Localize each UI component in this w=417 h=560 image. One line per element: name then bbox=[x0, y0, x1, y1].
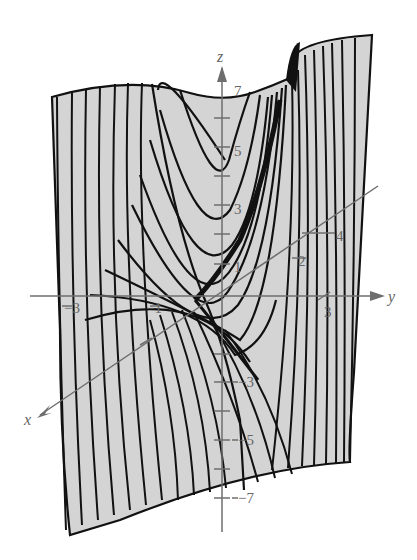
diag-tick-2: 2 bbox=[298, 253, 306, 269]
x-arrow-icon bbox=[37, 405, 52, 418]
surface-plot: z y x 7 5 3 1 −3 −5 −7 −3 −1 3 2 4 bbox=[0, 0, 417, 560]
z-tick-5: 5 bbox=[234, 143, 242, 159]
z-tick-3: 3 bbox=[234, 201, 242, 217]
z-tick-1: 1 bbox=[234, 259, 242, 275]
z-arrow-icon bbox=[217, 66, 227, 82]
z-axis-label: z bbox=[216, 48, 224, 65]
y-tick-neg3: −3 bbox=[64, 300, 80, 316]
z-tick-neg3: −3 bbox=[238, 374, 254, 390]
x-axis-label: x bbox=[23, 411, 31, 428]
y-tick-neg1: −1 bbox=[146, 300, 162, 316]
z-tick-7: 7 bbox=[234, 83, 242, 99]
z-tick-neg7: −7 bbox=[238, 490, 254, 506]
y-tick-3: 3 bbox=[324, 304, 332, 320]
z-tick-neg5: −5 bbox=[238, 432, 254, 448]
y-arrow-icon bbox=[370, 291, 385, 301]
diag-tick-4: 4 bbox=[336, 228, 344, 244]
y-axis-label: y bbox=[386, 288, 396, 306]
